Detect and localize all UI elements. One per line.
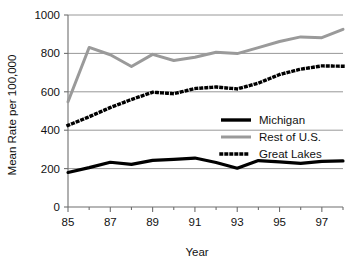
x-tick-label: 97 <box>315 216 328 228</box>
y-tick-label: 600 <box>41 86 60 98</box>
x-axis-title: Year <box>185 246 208 258</box>
x-tick-label: 89 <box>146 216 159 228</box>
legend-label-michigan: Michigan <box>259 114 305 126</box>
x-tick-label: 93 <box>231 216 244 228</box>
y-tick-label: 200 <box>41 163 60 175</box>
y-tick-label: 1000 <box>34 9 60 21</box>
y-tick-label: 0 <box>54 201 60 213</box>
chart-figure: 85878991939597 02004006008001000 Michiga… <box>0 0 355 268</box>
legend-label-rest-of-u-s: Rest of U.S. <box>259 131 321 143</box>
line-chart: 85878991939597 02004006008001000 Michiga… <box>0 0 355 268</box>
y-tick-label: 800 <box>41 47 60 59</box>
y-tick-label: 400 <box>41 124 60 136</box>
x-tick-label: 91 <box>189 216 202 228</box>
x-tick-label: 95 <box>273 216 286 228</box>
y-axis-title: Mean Rate per 100,000 <box>6 55 18 176</box>
legend-label-great-lakes: Great Lakes <box>259 148 322 160</box>
x-tick-label: 85 <box>62 216 75 228</box>
x-tick-label: 87 <box>104 216 117 228</box>
